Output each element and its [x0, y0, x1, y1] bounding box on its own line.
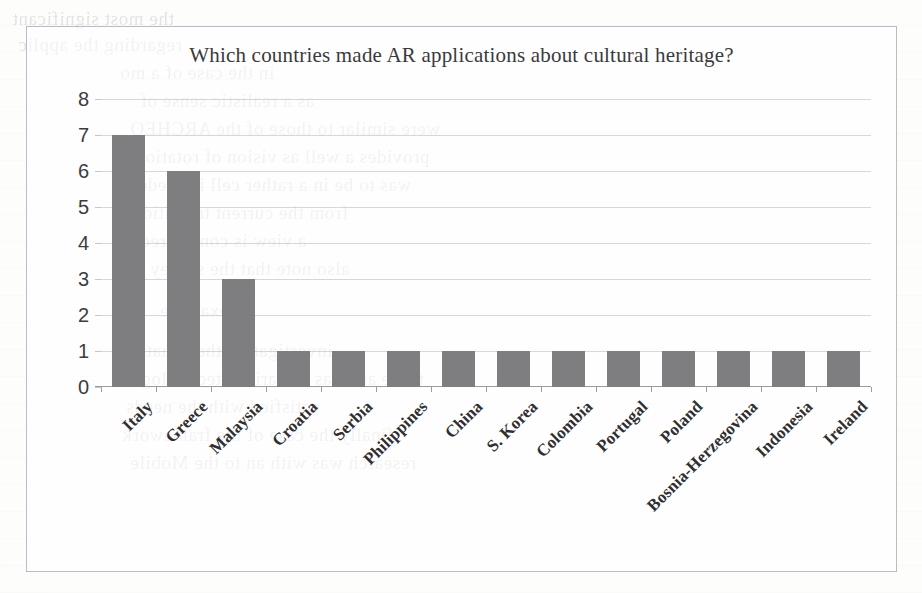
gridline [101, 279, 871, 280]
y-axis-tick-label: 8 [78, 89, 89, 109]
y-axis-tick-mark [95, 99, 101, 100]
bar [607, 351, 640, 387]
bar [112, 135, 145, 387]
bar [772, 351, 805, 387]
x-axis-labels: ItalyGreeceMalaysiaCroatiaSerbiaPhilippi… [101, 389, 871, 569]
y-axis-tick-label: 5 [78, 197, 89, 217]
gridline [101, 315, 871, 316]
x-axis-tick-label: Colombia [532, 397, 597, 462]
x-axis-tick-label: Indonesia [752, 397, 817, 462]
scanned-page: the most significant regarding the appli… [0, 0, 922, 593]
bar [222, 279, 255, 387]
x-axis-tick-label: Poland [656, 397, 707, 448]
y-axis-tick-label: 7 [78, 125, 89, 145]
bar [717, 351, 750, 387]
y-axis-tick-label: 1 [78, 341, 89, 361]
x-axis-tick-label: Croatia [268, 397, 322, 451]
gridline [101, 207, 871, 208]
bar [552, 351, 585, 387]
x-axis-tick-label: Italy [118, 397, 157, 436]
gridline [101, 99, 871, 100]
bar [497, 351, 530, 387]
bar [442, 351, 475, 387]
x-axis-tick-label: Malaysia [205, 397, 266, 458]
gridline [101, 351, 871, 352]
x-axis-tick-label: China [441, 397, 487, 443]
x-axis-tick-label: Greece [161, 397, 211, 447]
bar [827, 351, 860, 387]
x-axis-tick-label: Serbia [329, 397, 377, 445]
y-axis-tick-mark [95, 351, 101, 352]
x-axis-tick-label: Portugal [592, 397, 651, 456]
y-axis-tick-label: 6 [78, 161, 89, 181]
y-axis-tick-label: 4 [78, 233, 89, 253]
gridline [101, 135, 871, 136]
y-axis-tick-label: 2 [78, 305, 89, 325]
y-axis-tick-mark [95, 315, 101, 316]
y-axis-tick-mark [95, 135, 101, 136]
bar [277, 351, 310, 387]
x-axis-tick-mark [871, 387, 872, 392]
gridline [101, 171, 871, 172]
bar [662, 351, 695, 387]
y-axis-tick-mark [95, 207, 101, 208]
x-axis-tick-label: Ireland [819, 397, 871, 449]
plot-area: 012345678 [101, 99, 871, 387]
y-axis-tick-mark [95, 243, 101, 244]
y-axis-tick-mark [95, 279, 101, 280]
bar [387, 351, 420, 387]
gridline [101, 243, 871, 244]
chart-title: Which countries made AR applications abo… [27, 43, 896, 68]
bar [167, 171, 200, 387]
chart-frame: Which countries made AR applications abo… [26, 26, 897, 572]
bar [332, 351, 365, 387]
y-axis-tick-label: 0 [78, 377, 89, 397]
y-axis-tick-mark [95, 171, 101, 172]
y-axis-tick-label: 3 [78, 269, 89, 289]
